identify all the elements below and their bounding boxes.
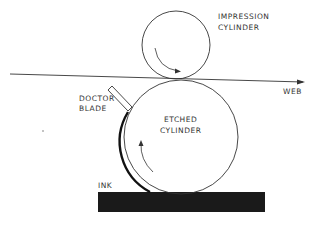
- impression-rotation-arrow: [155, 48, 178, 71]
- impression-label-2: CYLINDER: [218, 23, 259, 33]
- ink-film-arc: [120, 112, 150, 192]
- doctor-label-2: BLADE: [79, 104, 107, 114]
- etched-rotation-arrow: [141, 143, 153, 172]
- etched-label-1: ETCHED: [164, 115, 197, 125]
- ink-trough: [98, 192, 265, 212]
- impression-label-1: IMPRESSION: [218, 12, 269, 22]
- etched-cylinder: [124, 80, 238, 194]
- web-label: WEB: [283, 87, 302, 97]
- gravure-diagram: [0, 0, 316, 225]
- impression-arrowhead: [175, 69, 181, 74]
- etched-arrowhead: [139, 140, 144, 146]
- ink-label: INK: [98, 181, 112, 191]
- stray-dot: [42, 130, 44, 132]
- impression-cylinder: [142, 11, 210, 79]
- etched-label-2: CYLINDER: [160, 126, 201, 136]
- web-line: [10, 74, 303, 82]
- web-arrowhead: [297, 80, 305, 85]
- doctor-label-1: DOCTOR: [79, 94, 115, 104]
